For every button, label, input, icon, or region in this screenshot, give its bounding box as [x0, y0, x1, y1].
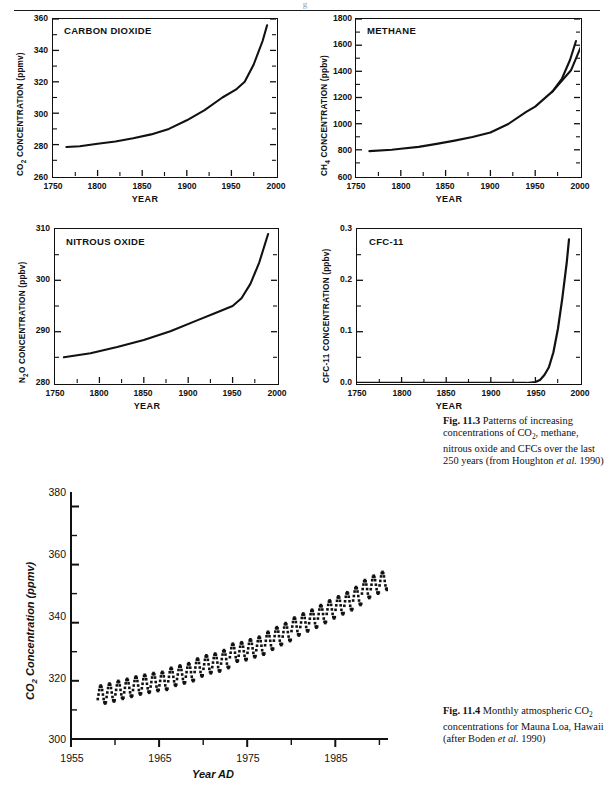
- xtick-n2o-5: 2000: [256, 388, 298, 398]
- ytick-cfc11-0: 0.3: [322, 223, 352, 233]
- ytick-cfc11-2: 0.1: [322, 325, 352, 335]
- ytick-ch4-5: 800: [314, 145, 352, 155]
- ytick-ch4-0: 1800: [314, 13, 352, 23]
- ytick-co2-1: 340: [16, 45, 48, 55]
- xtick-ml-1: 1965: [136, 752, 184, 764]
- ytick-ml-0: 380: [38, 486, 66, 498]
- caption-fig-11-3-text-3: 1990): [577, 455, 604, 466]
- plot-svg-cfc-11: [357, 229, 580, 383]
- caption-fig-11-4-sub: 2: [589, 710, 593, 719]
- plot-svg-mauna-loa: [70, 492, 388, 748]
- xtick-cfc11-5: 2000: [559, 388, 601, 398]
- caption-fig-11-3-italic: et al.: [556, 455, 577, 466]
- ytick-ch4-1: 1600: [314, 39, 352, 49]
- plot-svg-carbon-dioxide: [53, 19, 276, 176]
- xtick-n2o-1: 1800: [78, 388, 120, 398]
- ytick-ch4-2: 1400: [314, 66, 352, 76]
- plot-svg-methane: [356, 19, 580, 176]
- ytick-n2o-0: 310: [18, 223, 50, 233]
- axis-label-y-cfc11: CFC-11 CONCENTRATION (ppbv): [322, 249, 331, 383]
- panel-title-nitrous-oxide: NITROUS OXIDE: [66, 236, 145, 247]
- figure-page: g CO2 CONCENTRATION (ppmv) 360 340 320 3…: [0, 0, 613, 787]
- xtick-ml-3: 1985: [312, 752, 360, 764]
- xtick-cfc11-3: 1900: [470, 388, 512, 398]
- ytick-co2-0: 360: [16, 13, 48, 23]
- ytick-ml-4: 300: [38, 733, 66, 745]
- ytick-cfc11-3: 0.0: [322, 377, 352, 387]
- xtick-co2-4: 1950: [210, 181, 252, 191]
- xtick-ch4-4: 1950: [514, 181, 556, 191]
- ytick-co2-4: 280: [16, 141, 48, 151]
- caption-fig-11-4-label: Fig. 11.4: [443, 705, 480, 716]
- xtick-ml-0: 1955: [48, 752, 96, 764]
- axis-label-x-cfc11: YEAR: [419, 401, 479, 411]
- xtick-co2-5: 2000: [255, 181, 297, 191]
- caption-fig-11-3: Fig. 11.3 Patterns of increasing concent…: [443, 415, 605, 467]
- ytick-ch4-4: 1000: [314, 119, 352, 129]
- plot-area-carbon-dioxide: [52, 18, 278, 178]
- series-line-co2: [66, 25, 267, 147]
- ytick-ml-3: 320: [38, 672, 66, 684]
- caption-fig-11-4: Fig. 11.4 Monthly atmospheric CO2 concen…: [443, 705, 605, 745]
- ytick-co2-3: 300: [16, 109, 48, 119]
- axis-label-y-mauna-loa: CO2 Concentration (ppmv): [24, 562, 39, 700]
- xtick-ch4-5: 2000: [559, 181, 601, 191]
- xtick-cfc11-1: 1800: [381, 388, 423, 398]
- xtick-ch4-2: 1850: [424, 181, 466, 191]
- ytick-n2o-1: 300: [18, 274, 50, 284]
- plot-area-mauna-loa: [70, 492, 388, 748]
- ytick-co2-2: 320: [16, 77, 48, 87]
- caption-fig-11-4-text-3: 1990): [519, 733, 546, 744]
- caption-fig-11-4-text-1: Monthly atmospheric CO: [480, 705, 589, 716]
- page-header-mark: g: [298, 0, 312, 9]
- xtick-n2o-4: 1950: [211, 388, 253, 398]
- xtick-cfc11-2: 1850: [425, 388, 467, 398]
- ytick-ml-2: 340: [38, 610, 66, 622]
- plot-area-nitrous-oxide: [54, 228, 279, 385]
- axis-label-x-mauna-loa: Year AD: [178, 768, 248, 780]
- ytick-n2o-3: 280: [18, 377, 50, 387]
- xtick-cfc11-0: 1750: [336, 388, 378, 398]
- series-line-ch4: [369, 47, 580, 152]
- caption-fig-11-4-italic: et al.: [498, 733, 519, 744]
- series-line-n2o: [64, 234, 268, 357]
- xtick-ch4-1: 1800: [380, 181, 422, 191]
- axis-label-x-co2: YEAR: [115, 194, 175, 204]
- xtick-n2o-2: 1850: [122, 388, 164, 398]
- xtick-ch4-0: 1750: [335, 181, 377, 191]
- xtick-co2-2: 1850: [121, 181, 163, 191]
- panel-title-cfc-11: CFC-11: [369, 236, 404, 247]
- xtick-ml-2: 1975: [224, 752, 272, 764]
- ytick-ml-1: 360: [38, 548, 66, 560]
- xtick-n2o-3: 1900: [167, 388, 209, 398]
- series-line-cfc11: [527, 239, 570, 383]
- ytick-ch4-3: 1200: [314, 92, 352, 102]
- xtick-ch4-3: 1900: [469, 181, 511, 191]
- xtick-cfc11-4: 1950: [515, 388, 557, 398]
- series-scatter-mauna-loa: [96, 571, 388, 705]
- plot-svg-nitrous-oxide: [55, 229, 277, 383]
- ytick-n2o-2: 290: [18, 325, 50, 335]
- panel-title-methane: METHANE: [367, 25, 416, 36]
- plot-area-cfc-11: [356, 228, 582, 385]
- panel-title-carbon-dioxide: CARBON DIOXIDE: [64, 25, 152, 36]
- axis-label-x-ch4: YEAR: [419, 194, 479, 204]
- page-header-rule: [14, 10, 600, 11]
- axis-label-x-n2o: YEAR: [117, 401, 177, 411]
- xtick-n2o-0: 1750: [34, 388, 76, 398]
- xtick-co2-1: 1800: [76, 181, 118, 191]
- plot-area-methane: [355, 18, 582, 178]
- xtick-co2-3: 1900: [166, 181, 208, 191]
- caption-fig-11-3-label: Fig. 11.3: [443, 415, 480, 426]
- ytick-cfc11-1: 0.2: [322, 274, 352, 284]
- xtick-co2-0: 1750: [32, 181, 74, 191]
